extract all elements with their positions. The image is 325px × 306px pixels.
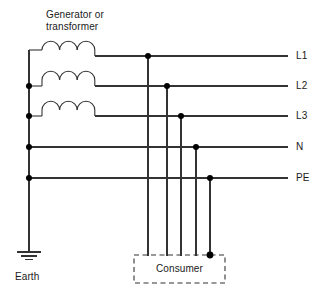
consumer-pe-node [207,252,214,259]
bus-node-L2 [26,83,32,89]
consumer-label: Consumer [134,263,225,275]
coil-L2 [29,71,95,86]
conductor-label-PE: PE [296,172,310,184]
tap-node-L2 [164,83,170,89]
earth-label: Earth [15,271,39,283]
junction-dots [26,53,213,258]
conductor-label-L3: L3 [296,110,307,122]
bus-node-PE [26,175,32,181]
tap-node-L3 [178,113,184,119]
bus-node-N [26,144,32,150]
conductor-label-N: N [296,141,303,153]
schematic-canvas [0,0,325,306]
tap-node-N [193,144,199,150]
bus-node-L3 [26,113,32,119]
coil-L1 [29,41,95,56]
source-title-line-2: transformer [46,21,98,33]
earth-ground-icon [17,252,41,260]
source-title-line-1: Generator or [46,9,104,21]
conductor-label-L1: L1 [296,50,307,62]
tap-node-L1 [145,53,151,59]
tn-s-earthing-diagram: Generator or transformer L1 L2 L3 N PE E… [0,0,325,306]
coil-L3 [29,101,95,116]
tap-node-PE [207,175,213,181]
conductor-label-L2: L2 [296,80,307,92]
